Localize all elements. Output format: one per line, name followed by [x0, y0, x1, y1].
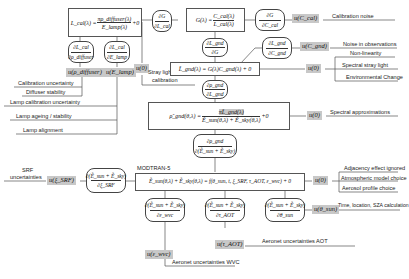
rho-equation-box: ρ̃_gnd(θ,λ) = πL̃_gnd(λ) Ẽ_sun(θ,λ) + Ẽ_… — [148, 102, 290, 130]
source-calibration-noise: Calibration noise — [332, 14, 374, 20]
rho-fraction: πL̃_gnd(λ) Ẽ_sun(θ,λ) + Ẽ_sky(θ,λ) — [202, 109, 260, 123]
modtran-label: MODTRAN-5 — [137, 166, 170, 172]
sensitivity-e-wvc: ∂(Ẽ_sun + Ẽ_sky) ∂ε_wvc — [145, 198, 185, 222]
sensitivity-numerator: ∂G — [159, 13, 166, 19]
sensitivity-denominator: ∂L_gnd — [206, 91, 223, 97]
sensitivity-numerator: ∂L_cal — [109, 44, 125, 50]
sensitivity-lcal-elamp: ∂L_cal ∂E_lamp — [104, 41, 130, 63]
sensitivity-numerator: ∂ρ_gnd — [207, 82, 224, 88]
lcal-lhs: L_cal(λ) = — [71, 20, 97, 26]
lcal-tail: +0 — [132, 20, 139, 26]
sensitivity-denominator: ∂ρ_diffuser — [68, 54, 93, 60]
source-calibration-uncertainty: Calibration uncertainty — [18, 81, 74, 87]
lgnd-equation: L̃_gnd(λ) = G(λ)C_gnd(λ) + 0 — [179, 66, 252, 72]
sensitivity-denominator: ∂E_lamp — [107, 54, 127, 60]
sensitivity-g-lcal: ∂G ∂L_cal — [152, 10, 172, 32]
gain-equation-box: G(λ) = C_cal(λ) L_cal(λ) — [186, 8, 245, 32]
sensitivity-g-ccal: ∂G ∂C_cal — [255, 9, 285, 31]
u-elamp: u(E_lamp) — [104, 68, 136, 77]
sensitivity-lgnd-cgnd: ∂L_gnd ∂C_gnd — [262, 37, 292, 59]
sensitivity-denominator: ∂ξ_SRF — [97, 182, 115, 188]
u-aot: u(τ_AOT) — [215, 240, 244, 249]
sensitivity-lgnd-g: ∂L_gnd ∂G — [202, 38, 228, 57]
lcal-numerator: πρ_diffuser(λ) — [97, 16, 131, 22]
u-ccal: u(C_cal) — [292, 14, 319, 23]
sensitivity-denominator: ∂τ_AOT — [216, 212, 234, 218]
sensitivity-numerator: ∂(Ẽ_sun + Ẽ_sky) — [86, 173, 126, 179]
sensitivity-numerator: ∂(Ẽ_sun + Ẽ_sky) — [205, 202, 245, 208]
source-adjacency-effect: Adjacency effect ignored — [344, 166, 405, 172]
sensitivity-denominator: ∂L_cal — [154, 23, 170, 29]
sensitivity-lcal-rho-diffuser: ∂L_cal ∂ρ_diffuser — [68, 41, 94, 63]
source-diffuser-stability: Diffuser stability — [26, 90, 65, 96]
sensitivity-numerator: ∂ρ_gnd — [207, 138, 224, 144]
source-aerosol-profile: Aerosol profile choice — [342, 186, 395, 192]
gain-numerator: C_cal(λ) — [213, 13, 234, 19]
sensitivity-denominator: ∂θ_sun — [277, 212, 293, 218]
u-srf: u(ξ_SRF) — [47, 176, 76, 185]
modtran-equation-box: Ẽ_sun(θ,λ) + Ẽ_sky(θ,λ) = f(θ_sun, t, ξ_… — [135, 173, 305, 191]
source-srf-1: SRF — [22, 168, 33, 174]
u-zero-modtran: u(0) — [313, 176, 328, 185]
sensitivity-denominator: ∂G — [212, 49, 219, 55]
sensitivity-numerator: ∂(Ẽ_sun + Ẽ_sky) — [265, 202, 305, 208]
rho-tail: +0 — [261, 113, 268, 119]
sensitivity-rho-e: ∂ρ_gnd ∂(Ẽ_sun + Ẽ_sky) — [193, 134, 237, 158]
source-time-location-sza: Time, location, SZA calculation — [338, 203, 409, 208]
sensitivity-rho-lgnd: ∂ρ_gnd ∂L_gnd — [202, 80, 228, 99]
lcal-denominator: E_lamp(λ) — [102, 24, 127, 30]
source-aeronet-aot: Aeronet uncertainties AOT — [262, 239, 328, 245]
u-theta-sun: u(θ_sun) — [312, 205, 339, 214]
source-aeronet-wvc: Aeronet uncertainties WVC — [172, 260, 239, 266]
source-spectral-approximations: Spectral approximations — [330, 110, 390, 116]
sensitivity-numerator: ∂L_cal — [73, 44, 89, 50]
sensitivity-numerator: ∂(Ẽ_sun + Ẽ_sky) — [145, 202, 185, 208]
source-stray-light-2: calibration — [152, 78, 178, 84]
sensitivity-denominator: ∂C_gnd — [268, 50, 286, 56]
source-environmental-change: Environmental Change — [346, 75, 403, 81]
source-noise-in-observations: Noise in observations — [343, 42, 396, 48]
source-srf-2: uncertainties — [10, 175, 42, 181]
lcal-fraction: πρ_diffuser(λ) E_lamp(λ) — [97, 16, 131, 30]
u-zero-stray-light: u(0) — [134, 64, 149, 73]
rho-numerator: πL̃_gnd(λ) — [219, 109, 244, 115]
gain-fraction: C_cal(λ) L_cal(λ) — [213, 13, 234, 27]
sensitivity-denominator: ∂(Ẽ_sun + Ẽ_sky) — [195, 148, 235, 154]
rho-lhs: ρ̃_gnd(θ,λ) = — [169, 113, 200, 119]
lgnd-equation-box: L̃_gnd(λ) = G(λ)C_gnd(λ) + 0 — [170, 62, 260, 76]
gain-denominator: L_cal(λ) — [214, 21, 234, 27]
sensitivity-denominator: ∂ε_wvc — [157, 212, 173, 218]
sensitivity-e-srf: ∂(Ẽ_sun + Ẽ_sky) ∂ξ_SRF — [86, 168, 126, 193]
sensitivity-numerator: ∂L_gnd — [268, 40, 285, 46]
u-cgnd: u(C_gnd) — [300, 42, 329, 51]
lcal-equation-box: L_cal(λ) = πρ_diffuser(λ) E_lamp(λ) +0 — [68, 8, 142, 37]
sensitivity-numerator: ∂G — [267, 12, 274, 18]
sensitivity-numerator: ∂L_gnd — [206, 40, 223, 46]
sensitivity-e-sun: ∂(Ẽ_sun + Ẽ_sky) ∂θ_sun — [265, 198, 305, 222]
source-non-linearity: Non-linearity — [350, 51, 381, 57]
u-rho-diffuser: u(ρ_diffuser) — [66, 68, 104, 77]
u-zero-lgnd: u(0) — [306, 64, 321, 73]
u-zero-spectral: u(0) — [307, 111, 322, 120]
source-lamp-calibration-uncertainty: Lamp calibration uncertainty — [10, 100, 80, 106]
sensitivity-denominator: ∂C_cal — [262, 22, 278, 28]
modtran-equation: Ẽ_sun(θ,λ) + Ẽ_sky(θ,λ) = f(θ_sun, t, ξ_… — [149, 179, 291, 185]
source-spectral-stray-light: Spectral stray light — [342, 63, 388, 69]
gain-lhs: G(λ) = — [196, 17, 212, 23]
source-lamp-ageing: Lamp ageing / stability — [16, 114, 72, 120]
sensitivity-e-aot: ∂(Ẽ_sun + Ẽ_sky) ∂τ_AOT — [205, 198, 245, 222]
rho-denominator: Ẽ_sun(θ,λ) + Ẽ_sky(θ,λ) — [202, 117, 260, 123]
source-lamp-alignment: Lamp alignment — [23, 128, 63, 134]
u-wvc: u(ε_wvc) — [145, 250, 173, 259]
source-atmospheric-model: Atmospheric model choice — [341, 176, 407, 182]
